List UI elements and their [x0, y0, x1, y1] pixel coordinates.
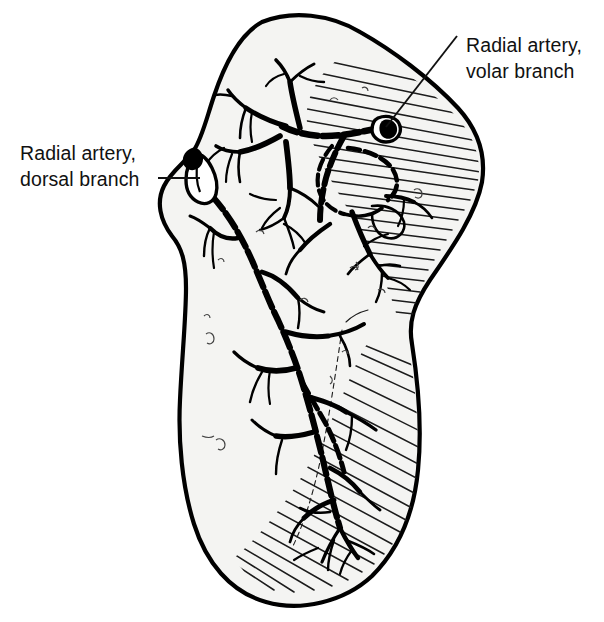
dorsal-label-line-1: Radial artery, — [20, 142, 136, 164]
volar-label-line-1: Radial artery, — [466, 34, 582, 56]
volar-label-line-2: volar branch — [466, 60, 575, 82]
scaphoid-vascular-diagram: Radial artery, dorsal branch Radial arte… — [0, 0, 604, 622]
dorsal-label-line-2: dorsal branch — [20, 168, 139, 190]
radial-artery-volar-stub — [372, 116, 400, 142]
